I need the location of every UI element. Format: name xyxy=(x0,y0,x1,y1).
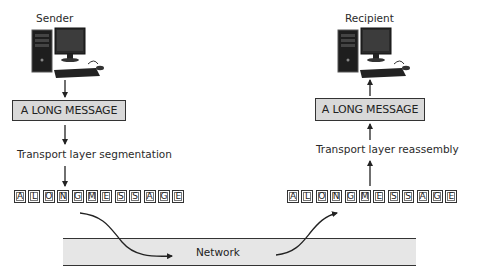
curved-arrow-out-of-network-icon xyxy=(276,213,337,255)
arrows-layer xyxy=(0,0,482,277)
curved-arrow-into-network-icon xyxy=(80,213,172,256)
